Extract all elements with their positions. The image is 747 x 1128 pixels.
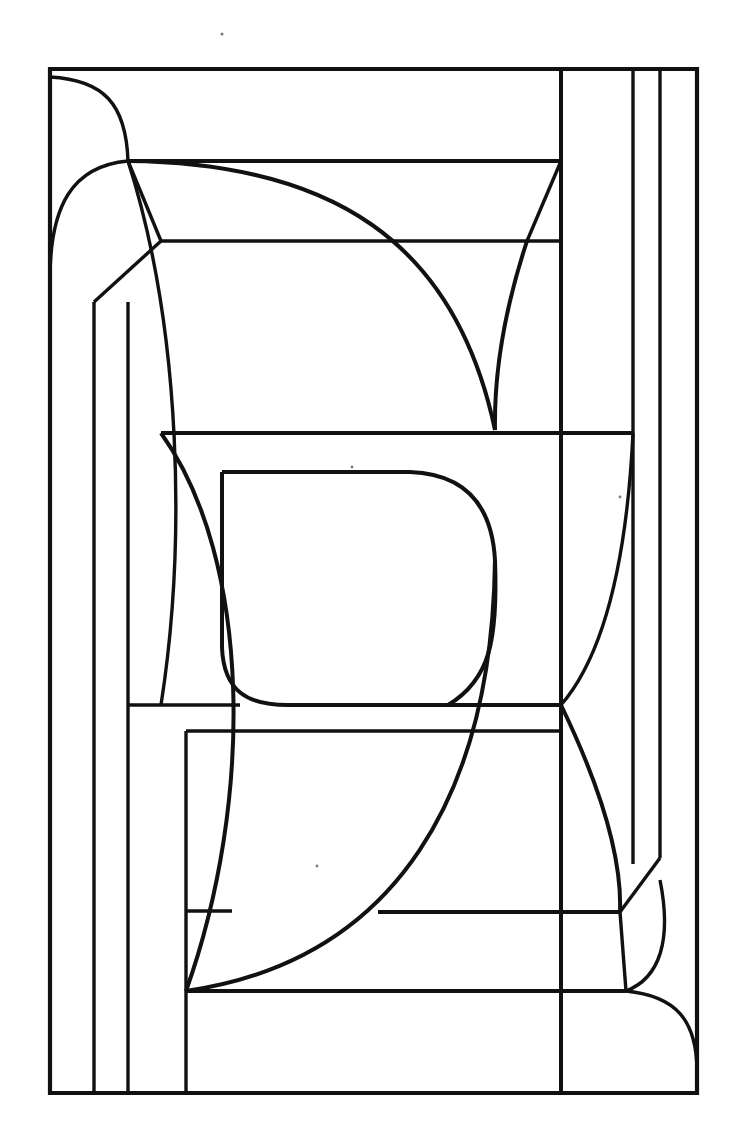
speck-upper-mid bbox=[351, 466, 354, 469]
upper-right-descending-curve bbox=[495, 241, 527, 430]
bottom-right-spine-curve bbox=[561, 705, 620, 912]
top-left-lower-arc bbox=[50, 161, 128, 279]
bottom-right-vertical-link bbox=[620, 912, 626, 991]
bottom-right-outer-arc bbox=[626, 991, 697, 1072]
speck-right-mid bbox=[619, 496, 622, 499]
speck-lower-left bbox=[316, 865, 319, 868]
upper-right-diagonal bbox=[527, 161, 561, 241]
artwork-canvas bbox=[0, 0, 747, 1128]
centre-z-right-curve bbox=[448, 560, 496, 705]
top-sweep-curve bbox=[128, 161, 495, 430]
top-left-upper-arc bbox=[50, 77, 128, 161]
right-lobe-arc bbox=[561, 433, 633, 705]
centre-z-upper-curve bbox=[410, 472, 495, 560]
speck-top bbox=[220, 32, 223, 35]
line-art-drawing bbox=[0, 0, 747, 1128]
bottom-right-corner-diagonal bbox=[620, 858, 660, 912]
outer-frame-rect bbox=[50, 69, 697, 1093]
